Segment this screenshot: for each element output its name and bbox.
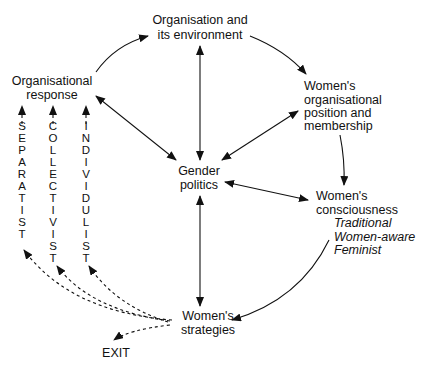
letter: T [49, 252, 56, 264]
arrow-response-gender [96, 96, 176, 160]
node-label-line: Women's [304, 79, 355, 93]
letter: E [49, 168, 57, 180]
node-organisational-response: Organisational response [12, 74, 93, 102]
node-organisation-environment: Organisation and its environment [152, 13, 247, 42]
node-gender-politics: Gender politics [178, 164, 220, 192]
node-label-line: its environment [158, 28, 243, 42]
consciousness-type: Feminist [334, 243, 382, 257]
node-label-line: Women's [182, 309, 233, 323]
consciousness-type: Women-aware [334, 230, 415, 244]
letter: S [49, 240, 57, 252]
arrow-environment-to-position [250, 36, 306, 74]
letter: D [82, 192, 90, 204]
node-womens-consciousness: Women's consciousness Traditional Women-… [316, 189, 415, 257]
node-label-line: organisational [304, 93, 382, 107]
letter: T [82, 252, 89, 264]
letter: I [51, 228, 54, 240]
letter: T [18, 192, 25, 204]
strategy-separatist: S E P A R A T I S T [18, 120, 26, 240]
gender-politics-diagram: Organisation and its environment Organis… [0, 0, 423, 370]
node-label-line: membership [304, 119, 373, 133]
node-label-line: Gender [178, 164, 220, 178]
letter: V [49, 216, 57, 228]
strategy-collectivist: C O L L E C T I V I S T [49, 120, 58, 264]
letter: V [82, 168, 90, 180]
arrow-gender-consciousness [225, 182, 308, 200]
arrow-consciousness-to-strategies [232, 240, 329, 320]
letter: I [84, 156, 87, 168]
letter: I [51, 204, 54, 216]
letter: E [18, 132, 26, 144]
letter: O [49, 132, 58, 144]
letter: A [18, 180, 26, 192]
node-womens-strategies: Women's strategies [181, 309, 235, 337]
letter: L [50, 156, 57, 168]
letter: I [84, 180, 87, 192]
letter: C [49, 180, 57, 192]
node-label-line: Organisation and [152, 13, 247, 27]
node-womens-position: Women's organisational position and memb… [304, 79, 382, 133]
letter: L [83, 216, 90, 228]
letter: I [20, 204, 23, 216]
letter: R [18, 168, 26, 180]
arrow-response-to-environment [96, 36, 148, 72]
node-label-line: Women's [316, 189, 367, 203]
letter: S [82, 240, 90, 252]
letter: I [84, 228, 87, 240]
letter: N [82, 132, 90, 144]
letter: T [49, 192, 56, 204]
letter: D [82, 144, 90, 156]
node-label-line: Organisational [12, 74, 93, 88]
node-label-line: politics [180, 178, 218, 192]
consciousness-type: Traditional [334, 216, 393, 230]
letter: P [18, 144, 26, 156]
letter: S [18, 216, 26, 228]
strategy-individulist: I N D I V I D U L I S T [82, 120, 90, 264]
letter: U [82, 204, 90, 216]
node-label-line: consciousness [316, 203, 398, 217]
letter: T [18, 228, 25, 240]
letter: A [18, 156, 26, 168]
arrow-position-to-consciousness [340, 135, 344, 185]
arrow-position-gender [222, 111, 298, 160]
arrow-strategies-to-separatist [24, 250, 172, 320]
node-label-line: position and [304, 106, 371, 120]
node-exit: EXIT [102, 346, 130, 360]
arrow-strategies-to-exit [114, 325, 170, 340]
node-label-line: strategies [181, 323, 235, 337]
node-label-line: response [26, 88, 77, 102]
letter: L [50, 144, 57, 156]
